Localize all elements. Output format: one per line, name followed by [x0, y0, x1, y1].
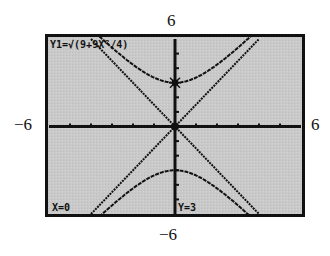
- cursor-y-readout: Y=3: [178, 202, 196, 213]
- calculator-screen: Y1=√(9+9X²/4) X=0 Y=3: [45, 34, 305, 217]
- cursor-x-readout: X=0: [52, 202, 70, 213]
- trace-cursor-icon: [169, 77, 181, 89]
- xmin-label: −6: [14, 116, 32, 133]
- xmax-label: 6: [311, 116, 320, 133]
- equation-text: Y1=√(9+9X²/4): [50, 39, 128, 50]
- ymin-label: −6: [159, 226, 177, 243]
- graph-plot: Y1=√(9+9X²/4) X=0 Y=3: [45, 34, 305, 217]
- ymax-label: 6: [167, 12, 176, 29]
